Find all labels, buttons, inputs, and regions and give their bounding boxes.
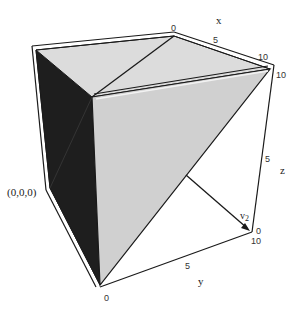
- y-tick-0: 0: [104, 293, 109, 303]
- y-axis-label: y: [198, 275, 204, 287]
- box-edge-z-axis: [252, 65, 274, 232]
- vector-v2-label: v2: [240, 210, 249, 223]
- polyhedron-diagram: x y z 0 10 5 10 5 0 10 5 0 (0,0,0) v2: [0, 0, 302, 309]
- x-tick-10: 5: [213, 35, 218, 45]
- front-light-face: [92, 69, 270, 285]
- origin-label: (0,0,0): [7, 186, 37, 199]
- z-tick-0: 0: [256, 226, 261, 236]
- x-tick-5: 10: [258, 52, 268, 62]
- y-tick-5: 5: [185, 261, 190, 271]
- x-axis-label: x: [216, 14, 222, 26]
- vector-v2: [186, 175, 247, 228]
- z-tick-10: 10: [276, 70, 286, 80]
- z-axis-label: z: [280, 164, 285, 176]
- vector-v2-subscript: 2: [245, 214, 249, 223]
- y-tick-10: 10: [251, 236, 261, 246]
- x-tick-0: 0: [171, 23, 176, 33]
- z-tick-5: 5: [265, 154, 270, 164]
